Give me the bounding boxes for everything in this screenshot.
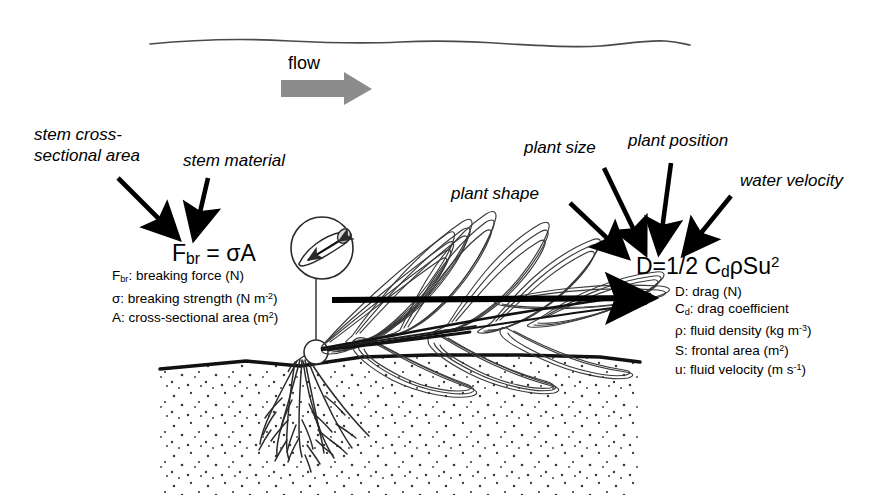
breaking-force-definitions: Fbr: breaking force (N) σ: breaking stre… xyxy=(112,268,278,327)
stem-cross-sectional-area-arrow xyxy=(118,178,178,238)
breaking-force-definition-0: Fbr: breaking force (N) xyxy=(112,268,278,288)
label-stem-cross-sectional-area: stem cross- sectional area xyxy=(34,124,140,167)
drag-formula-text: D=1/2 CdρSu2 xyxy=(636,253,779,279)
label-pointer-arrows-left xyxy=(118,178,208,238)
water-velocity-arrow xyxy=(684,196,731,254)
breaking-force-definition-1: σ: breaking strength (N m-2) xyxy=(112,288,278,308)
label-plant-position: plant position xyxy=(628,130,728,151)
breaking-force-formula-text: Fbr = σA xyxy=(172,240,256,266)
sediment-bed xyxy=(160,352,640,495)
plant-position-arrow xyxy=(659,163,671,252)
breaking-force-formula: Fbr = σA xyxy=(172,240,256,268)
water-surface-line xyxy=(150,39,690,47)
flow-label: flow xyxy=(288,53,320,74)
label-plant-shape: plant shape xyxy=(451,183,539,204)
figure-canvas: stem cross- sectional area stem material… xyxy=(0,0,872,495)
breaking-force-definition-2: A: cross-sectional area (m2) xyxy=(112,307,278,327)
label-pointer-arrows-right xyxy=(570,163,731,257)
label-plant-size: plant size xyxy=(524,137,596,158)
drag-definition-3: S: frontal area (m2) xyxy=(675,340,811,360)
flow-arrow xyxy=(281,72,372,105)
label-stem-material: stem material xyxy=(183,150,285,171)
stem-cross-section-inset xyxy=(291,217,353,279)
drag-force-arrow xyxy=(332,298,652,300)
drag-definitions: D: drag (N) Cd: drag coefficient ρ: flui… xyxy=(675,284,811,379)
drag-formula: D=1/2 CdρSu2 xyxy=(636,253,779,281)
stem-material-arrow xyxy=(194,178,208,238)
drag-definition-4: u: fluid velocity (m s-1) xyxy=(675,359,811,379)
drag-definition-1: Cd: drag coefficient xyxy=(675,301,811,321)
label-water-velocity: water velocity xyxy=(740,170,843,191)
drag-definition-2: ρ: fluid density (kg m-3) xyxy=(675,320,811,340)
diagram-vector-layer xyxy=(0,0,872,495)
drag-definition-0: D: drag (N) xyxy=(675,284,811,301)
